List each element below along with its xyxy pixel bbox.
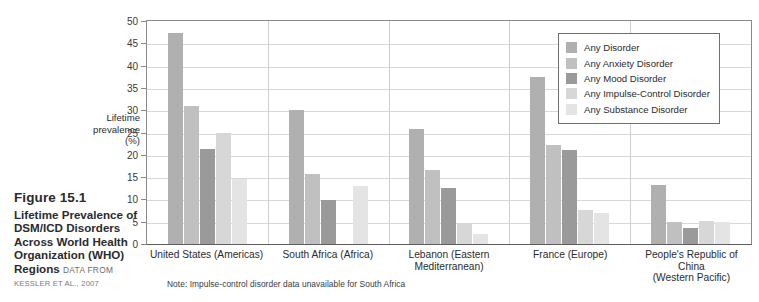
bar [457,224,472,244]
y-tick-mark [141,110,146,111]
bar [699,221,714,244]
bar-group [389,21,510,244]
bar [667,222,682,244]
legend-item: Any Anxiety Disorder [566,55,710,70]
legend-label: Any Mood Disorder [584,73,666,84]
legend-swatch [566,58,577,69]
bar [200,149,215,244]
x-axis-label-line: Mediterranean) [389,261,508,273]
y-tick-label: 45 [108,38,138,49]
legend-item: Any Mood Disorder [566,71,710,86]
y-tick-mark [141,21,146,22]
bar [530,77,545,244]
y-tick-mark [141,155,146,156]
legend-swatch [566,88,577,99]
legend-swatch [566,42,577,53]
x-axis-label-line: People's Republic of China [632,249,751,272]
legend-item: Any Substance Disorder [566,102,710,117]
x-axis-label-line: France (Europe) [511,249,630,261]
data-from-label: DATA FROM [63,265,113,275]
bar [289,110,304,244]
x-axis-label-line: Lebanon (Eastern [389,249,508,261]
chart-note: Note: Impulse-control disorder data unav… [167,279,405,289]
bar [409,129,424,244]
x-axis-label-line: (Western Pacific) [632,272,751,284]
y-tick-label: 10 [108,194,138,205]
y-tick-label: 25 [108,127,138,138]
x-axis-label: Lebanon (EasternMediterranean) [388,249,509,284]
legend-item: Any Impulse-Control Disorder [566,86,710,101]
x-axis-label-line: South Africa (Africa) [268,249,387,261]
legend-item: Any Disorder [566,40,710,55]
y-tick-mark [141,66,146,67]
bar [184,106,199,244]
bar [715,222,730,244]
x-axis-label: People's Republic of China(Western Pacif… [631,249,752,284]
y-tick-label: 0 [108,239,138,250]
y-tick-mark [141,88,146,89]
bar [425,170,440,244]
figure-source: KESSLER ET AL., 2007 [14,279,154,289]
bar [578,210,593,244]
y-tick-mark [141,199,146,200]
bar [473,234,488,244]
bar [651,185,666,244]
legend-label: Any Substance Disorder [584,104,687,115]
y-tick-label: 50 [108,16,138,27]
x-axis-label-line: United States (Americas) [147,249,266,261]
y-tick-mark [141,244,146,245]
bar [441,188,456,244]
y-tick-label: 35 [108,82,138,93]
bar [321,200,336,244]
bar [216,133,231,245]
y-tick-label: 15 [108,172,138,183]
bar-group [268,21,389,244]
bar [168,33,183,244]
y-tick-label: 40 [108,60,138,71]
bar [562,150,577,244]
bar [683,228,698,244]
bar-group [147,21,268,244]
legend-label: Any Disorder [584,42,639,53]
bar [546,145,561,244]
y-tick-mark [141,177,146,178]
legend-label: Any Impulse-Control Disorder [584,88,710,99]
y-tick-mark [141,222,146,223]
bar [232,179,247,244]
y-tick-label: 5 [108,216,138,227]
y-tick-mark [141,43,146,44]
legend-swatch [566,104,577,115]
bar [594,213,609,244]
y-tick-mark [141,133,146,134]
y-tick-label: 30 [108,105,138,116]
chart-legend: Any DisorderAny Anxiety DisorderAny Mood… [558,33,720,124]
x-axis-label: France (Europe) [510,249,631,284]
y-tick-label: 20 [108,149,138,160]
legend-swatch [566,73,577,84]
bar [305,174,320,244]
legend-label: Any Anxiety Disorder [584,58,673,69]
bar [353,186,368,244]
